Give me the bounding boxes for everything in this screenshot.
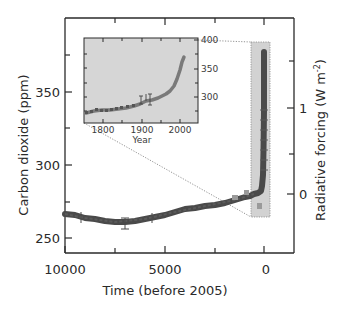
co2-chart: 10000 5000 0 350 300 250 1 0 1800 1900 2…: [0, 0, 339, 317]
inset-x-tick-2000: 2000: [169, 125, 192, 135]
y2-axis-title: Radiative forcing (W m-2): [313, 59, 328, 221]
y2-axis-title-end: ): [313, 59, 328, 64]
y-axis-ticks: [65, 55, 72, 238]
y-tick-300: 300: [35, 158, 60, 173]
y2-tick-1: 1: [299, 101, 307, 116]
x-tick-10000: 10000: [44, 262, 85, 277]
inset-y-tick-300: 300: [201, 92, 218, 102]
y2-tick-0: 0: [299, 187, 307, 202]
y2-axis-title-sup: -2: [313, 64, 322, 72]
y-axis-title: Carbon dioxide (ppm): [16, 74, 31, 215]
y2-axis-ticks: [287, 61, 294, 194]
inset-panel: [84, 38, 198, 123]
y-tick-350: 350: [35, 85, 60, 100]
inset-x-tick-1900: 1900: [131, 125, 154, 135]
x-axis-title: Time (before 2005): [101, 283, 227, 298]
y2-axis-title-main: Radiative forcing (W m: [313, 72, 328, 221]
inset-x-tick-1800: 1800: [92, 125, 115, 135]
x-tick-0: 0: [262, 262, 270, 277]
inset-y-tick-400: 400: [201, 35, 218, 45]
y-tick-250: 250: [35, 231, 60, 246]
inset-xlabel: Year: [131, 135, 151, 145]
inset-y-tick-350: 350: [201, 64, 218, 74]
x-tick-5000: 5000: [148, 262, 181, 277]
